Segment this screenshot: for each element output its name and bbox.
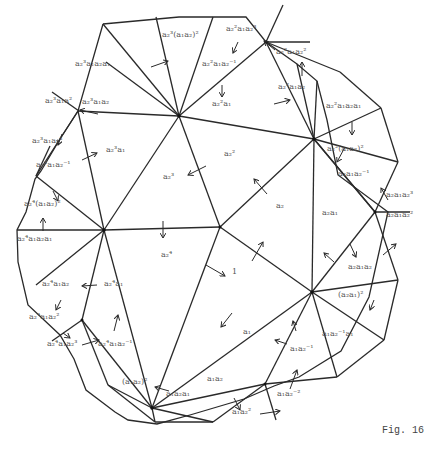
region-label: a₂a₁	[322, 209, 338, 217]
region-label: a₂²a₁	[212, 100, 231, 108]
region-label: a₂⁴(a₁a₂)²	[24, 200, 61, 208]
region-label: a₂³(a₁a₂)²	[162, 31, 199, 39]
region-label: 1	[232, 268, 237, 276]
region-label: a₂²	[224, 150, 235, 158]
region-label: a₂²a₁a₂³	[226, 25, 256, 33]
region-label: a₂²a₁a₂⁻¹	[202, 60, 237, 68]
region-label: a₂a₁a₂	[348, 263, 372, 271]
region-label: a₁a₂a₁	[166, 390, 190, 398]
region-label: a₂⁴a₁	[104, 280, 123, 288]
region-label: a₂a₁a₂⁻¹	[338, 170, 369, 178]
figure-stage: 1a₂a₂²a₂³a₂⁴a₁a₂a₁a₂²a₁a₂³a₁a₂⁴a₁a₁a₂a₁a…	[0, 0, 439, 450]
region-label: a₂⁴a₁a₂²	[29, 313, 59, 321]
region-label: a₂⁴a₁a₂⁻¹	[98, 340, 133, 348]
region-label: a₂³a₁a²	[45, 97, 72, 105]
figure-caption: Fig. 16	[382, 425, 424, 436]
region-label: a₂⁴a₁a₂³	[47, 340, 77, 348]
region-label: a₁a₂⁻¹	[290, 345, 313, 353]
region-label: a₂³a₁	[106, 146, 125, 154]
region-label: a₂a₁a₂³	[386, 191, 413, 199]
region-label: (a₂a₁)²	[338, 291, 363, 299]
region-label: a₁a₂⁻¹a₁	[322, 330, 353, 338]
region-label: a₂⁴	[161, 251, 172, 259]
region-label: a₁a₂²	[232, 408, 251, 416]
region-label: a₁a₂⁻²	[277, 390, 300, 398]
region-label: a₂²a₁a₂	[278, 83, 305, 91]
region-label: a₁a₂	[207, 375, 223, 383]
region-label: a₂²(a₁a₂)²	[327, 145, 364, 153]
region-label: a₂³a₁a₂³	[32, 137, 62, 145]
region-label: (a₁a₂)²	[122, 378, 147, 386]
region-label: a₂a₁a₂²	[386, 211, 413, 219]
region-label: a₂⁴a₁a₂a₁	[17, 235, 52, 243]
region-label: a₂	[276, 202, 284, 210]
region-label: a₂³a₁a₂⁻¹	[36, 161, 71, 169]
vertices	[81, 41, 377, 410]
region-label: a₂⁴a₁a₂	[42, 280, 69, 288]
region-label: a₂²a₁a₂²	[276, 48, 306, 56]
region-label: a₂²a₁a₂a₁	[326, 102, 361, 110]
region-label: a₂³a₁a₂a₁	[75, 60, 110, 68]
region-label: a₂³	[163, 173, 174, 181]
region-label: a₂³a₁a₂	[82, 98, 109, 106]
region-label: a₁	[243, 328, 251, 336]
